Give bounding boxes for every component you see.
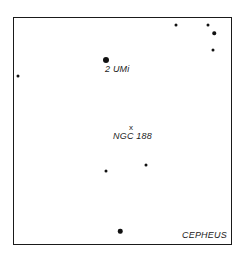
star-dot (145, 164, 148, 167)
star-dot (175, 24, 178, 27)
star-label-2-umi: 2 UMi (105, 64, 130, 74)
star-dot (17, 75, 20, 78)
star-dot (118, 229, 123, 234)
star-dot (103, 57, 109, 63)
star-dot (207, 24, 210, 27)
ngc-188-label: NGC 188 (113, 131, 152, 141)
star-dot (212, 31, 216, 35)
star-dot (212, 49, 215, 52)
constellation-label: CEPHEUS (182, 230, 227, 240)
star-dot (105, 170, 108, 173)
